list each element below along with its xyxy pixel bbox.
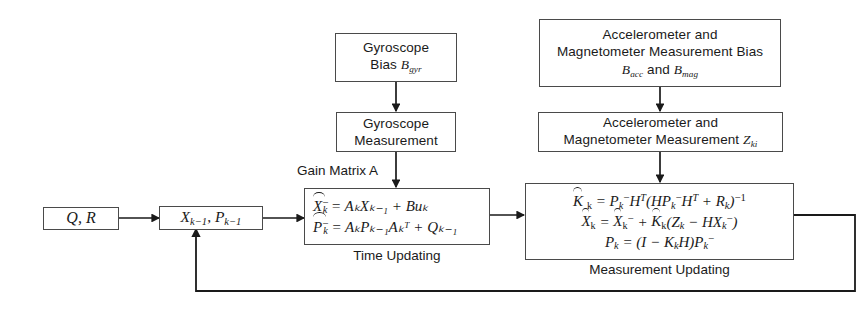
box-measurement-updating: KKₖ = Pₖ⁻Hᵀ(HPₖ⁻Hᵀ + Rₖ)⁻¹ k = Pk−HT(HPk…	[525, 183, 794, 260]
accel-mag-bias-line2: Magnetometer Measurement Bias	[557, 43, 763, 60]
time-update-equation-2: P−k = AₖPₖ₋₁Aₖᵀ + Qₖ₋₁	[313, 217, 457, 237]
box-time-updating: X−k = AₖXₖ₋₁ + Buₖ P−k = AₖPₖ₋₁Aₖᵀ + Qₖ₋…	[304, 188, 490, 245]
qr-text: Q, R	[66, 208, 95, 228]
symbol-K-k-hat: K	[573, 192, 583, 211]
time-update-equation-2-rhs: = AₖPₖ₋₁Aₖᵀ + Qₖ₋₁	[331, 218, 457, 234]
accel-mag-measurement-line1: Accelerometer and	[603, 114, 718, 131]
time-update-equation-1-rhs: = AₖXₖ₋₁ + Buₖ	[331, 198, 428, 214]
box-accel-mag-measurement: Accelerometer and Magnetometer Measureme…	[538, 112, 783, 152]
box-previous-state: Xk−1, Pk−1	[159, 206, 263, 230]
meas-update-equation-1-text: k = Pk−HT(HPk−HT + Rk)−1	[587, 193, 746, 209]
symbol-B-acc: Bacc	[622, 62, 643, 77]
symbol-Z-ki: Zki	[743, 132, 757, 147]
symbol-B-gyr: Bgyr	[401, 57, 422, 72]
caption-time-updating: Time Updating	[304, 248, 490, 263]
symbol-B-mag: Bmag	[674, 62, 698, 77]
symbol-X-k-minus-hat: X	[613, 212, 622, 231]
kalman-filter-diagram: Gyroscope Bias Bgyr Accelerometer and Ma…	[0, 0, 865, 315]
previous-state-text: Xk−1, Pk−1	[181, 207, 242, 228]
gain-matrix-text: Gain Matrix A	[297, 163, 378, 178]
symbol-K-k-hat-2: K	[651, 212, 661, 231]
symbol-X-k-1: Xk−1	[181, 208, 208, 225]
meas-update-equation-2: Xk = Xk− + Kk(Zk − HXk−)	[581, 212, 737, 232]
meas-update-equation-1: KKₖ = Pₖ⁻Hᵀ(HPₖ⁻Hᵀ + Rₖ)⁻¹ k = Pk−HT(HPk…	[573, 191, 746, 212]
meas-update-equation-3: Pk = (I − KkH)Pk−	[605, 232, 714, 252]
gyroscope-bias-line1: Gyroscope	[363, 39, 429, 56]
box-gyroscope-bias: Gyroscope Bias Bgyr	[335, 33, 457, 82]
symbol-X-k-hat: X	[581, 212, 590, 231]
box-gyroscope-measurement: Gyroscope Measurement	[336, 112, 456, 152]
caption-measurement-updating: Measurement Updating	[525, 262, 794, 277]
gyroscope-measurement-line2: Measurement	[354, 132, 438, 149]
symbol-P-k-minus: P−k	[313, 217, 328, 237]
box-accel-mag-bias: Accelerometer and Magnetometer Measureme…	[539, 19, 781, 87]
box-qr-noise-covariances: Q, R	[43, 207, 119, 230]
time-update-equation-1: X−k = AₖXₖ₋₁ + Buₖ	[313, 196, 428, 216]
accel-mag-bias-line3: Bacc and Bmag	[622, 61, 698, 80]
label-gain-matrix: Gain Matrix A	[297, 163, 378, 178]
gyroscope-bias-line2: Bias Bgyr	[370, 56, 421, 75]
gyroscope-measurement-line1: Gyroscope	[363, 115, 429, 132]
accel-mag-measurement-line2: Magnetometer Measurement Zki	[563, 131, 757, 150]
accel-mag-bias-line1: Accelerometer and	[602, 26, 717, 43]
symbol-P-k-1: Pk−1	[215, 208, 242, 225]
